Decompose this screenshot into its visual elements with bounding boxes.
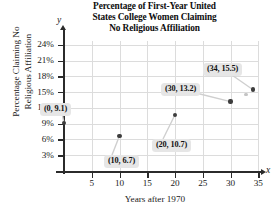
data-point-callout: (10, 6.7): [104, 155, 139, 168]
y-axis-tick: [58, 155, 64, 156]
y-axis-tick: [58, 45, 64, 46]
y-axis-arrow-icon: [60, 25, 66, 30]
y-axis-tick-label: 15%: [24, 87, 54, 97]
gridline-horizontal: [64, 155, 258, 156]
gridline-horizontal: [64, 61, 258, 62]
y-axis-tick-label: 18%: [24, 71, 54, 81]
x-axis-tick: [92, 172, 93, 178]
chart-figure: Percentage of First-Year United States C…: [0, 0, 277, 216]
y-axis-tick: [58, 61, 64, 62]
data-point-callout: (0, 9.1): [40, 103, 71, 116]
y-axis-tick: [58, 76, 64, 77]
gridline-vertical: [175, 41, 176, 172]
x-axis-variable-letter: x: [266, 165, 270, 175]
chart-title: Percentage of First-Year United States C…: [52, 1, 257, 34]
x-axis-tick-label: 20: [164, 178, 186, 188]
data-point: [251, 87, 255, 91]
gridline-horizontal: [64, 124, 258, 125]
y-axis-tick-label: 24%: [24, 39, 54, 49]
x-axis-tick-label: 10: [109, 178, 131, 188]
x-axis-tick: [231, 172, 232, 178]
plot-area: [64, 41, 258, 172]
x-axis-arrow-icon: [261, 169, 266, 175]
y-axis-title-line-1: Percentage Claiming No: [11, 2, 23, 142]
chart-title-line-3: No Religious Affiliation: [52, 23, 257, 34]
y-axis-tick: [58, 92, 64, 93]
y-axis-tick-label: 21%: [24, 55, 54, 65]
gridline-horizontal: [64, 45, 258, 46]
gridline-horizontal: [64, 108, 258, 109]
data-point: [173, 113, 177, 117]
x-axis-tick-label: 5: [81, 178, 103, 188]
chart-title-line-2: States College Women Claiming: [52, 12, 257, 23]
x-axis-tick: [147, 172, 148, 178]
x-axis-tick: [258, 172, 259, 178]
gridline-vertical: [92, 41, 93, 172]
y-axis-tick: [58, 139, 64, 140]
y-axis-variable-letter: y: [57, 15, 61, 25]
gridline-vertical: [231, 41, 232, 172]
data-point-callout: (30, 13.2): [161, 83, 200, 96]
x-axis-tick: [120, 172, 121, 178]
data-point: [117, 134, 121, 138]
data-point-faint: [244, 93, 247, 96]
gridline-vertical: [147, 41, 148, 172]
y-axis-tick-label: 6%: [24, 134, 54, 144]
x-axis-tick-label: 25: [192, 178, 214, 188]
x-axis-tick: [175, 172, 176, 178]
data-point-callout: (20, 10.7): [152, 139, 191, 152]
x-axis-tick-label: 15: [136, 178, 158, 188]
gridline-vertical: [120, 41, 121, 172]
data-point-callout: (34, 15.5): [203, 63, 242, 76]
x-axis-tick-label: 35: [247, 178, 269, 188]
x-axis-tick: [203, 172, 204, 178]
y-axis-tick-label: 3%: [24, 150, 54, 160]
chart-title-line-1: Percentage of First-Year United: [52, 1, 257, 12]
y-axis-tick-label: 9%: [24, 118, 54, 128]
y-axis-line: [63, 30, 65, 174]
gridline-horizontal: [64, 76, 258, 77]
data-point: [228, 99, 232, 103]
x-axis-title: Years after 1970: [55, 194, 255, 204]
gridline-vertical: [258, 41, 259, 172]
gridline-vertical: [203, 41, 204, 172]
x-axis-tick-label: 30: [220, 178, 242, 188]
